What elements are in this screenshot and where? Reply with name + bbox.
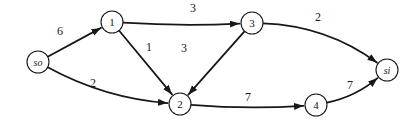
diagram-canvas: 62313277so1234si bbox=[0, 0, 417, 128]
node-si: si bbox=[376, 59, 398, 81]
edge-label-so-1: 6 bbox=[57, 24, 63, 38]
node-label-4: 4 bbox=[313, 99, 319, 111]
node-3: 3 bbox=[241, 12, 263, 34]
node-label-so: so bbox=[34, 57, 43, 68]
node-label-si: si bbox=[384, 65, 391, 76]
edge-label-1-2: 1 bbox=[146, 40, 152, 54]
flow-network-diagram: 62313277so1234si bbox=[0, 0, 417, 128]
node-4: 4 bbox=[305, 94, 327, 116]
edge-2-4 bbox=[191, 105, 304, 108]
edge-1-3 bbox=[123, 23, 240, 25]
node-label-1: 1 bbox=[109, 16, 115, 28]
edge-3-si bbox=[263, 23, 377, 62]
edge-label-3-2: 3 bbox=[181, 41, 187, 55]
edge-label-4-si: 7 bbox=[347, 78, 353, 92]
edge-so-1 bbox=[48, 28, 101, 57]
edge-3-2 bbox=[188, 31, 244, 94]
node-label-2: 2 bbox=[177, 98, 183, 110]
edge-so-2 bbox=[48, 67, 168, 103]
edge-label-1-3: 3 bbox=[190, 1, 196, 15]
edge-label-2-4: 7 bbox=[245, 90, 251, 104]
node-so: so bbox=[27, 51, 49, 73]
edge-label-so-2: 2 bbox=[90, 76, 96, 90]
node-2: 2 bbox=[169, 93, 191, 115]
edge-label-3-si: 2 bbox=[315, 10, 321, 24]
node-1: 1 bbox=[101, 11, 123, 33]
node-label-3: 3 bbox=[249, 17, 255, 29]
